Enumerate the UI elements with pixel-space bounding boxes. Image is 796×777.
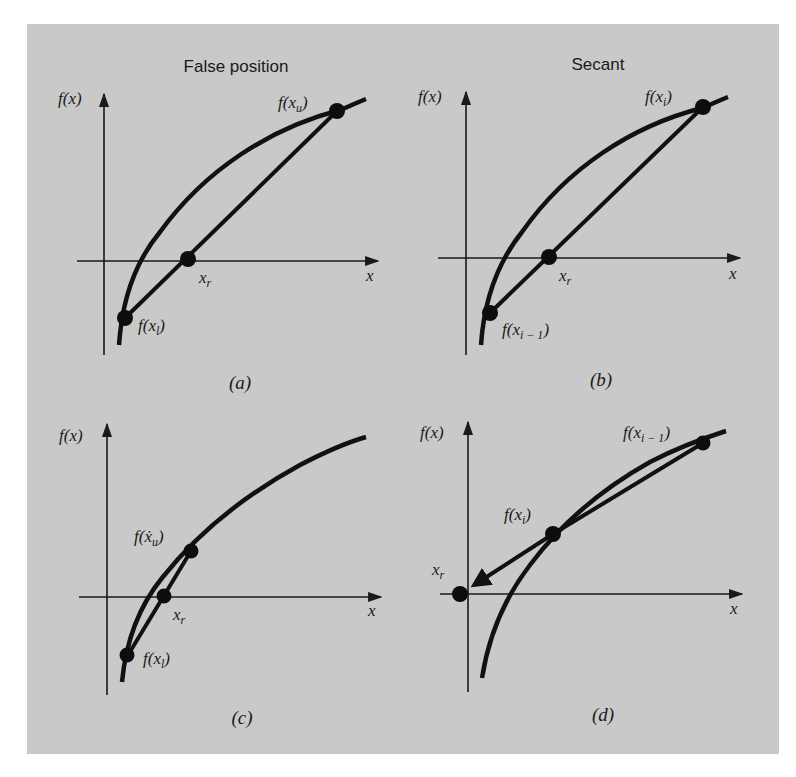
point-f-xi [695, 99, 711, 115]
function-curve [122, 437, 366, 682]
y-axis-label: f(x) [418, 87, 442, 106]
secant-line [553, 443, 703, 534]
column-title-secant: Secant [572, 55, 625, 74]
y-axis-label: f(x) [59, 426, 83, 445]
point-xr [180, 251, 196, 267]
y-axis-label: f(x) [58, 89, 82, 108]
point-f-xu [184, 544, 199, 559]
label-f-xi-minus-1: f(xi − 1) [623, 423, 670, 445]
point-f-xl [120, 648, 135, 663]
point-f-xi-minus-1 [696, 436, 711, 451]
column-title-false-position: False position [184, 57, 289, 76]
label-xr: xr [431, 560, 445, 582]
label-f-xi: f(xi) [504, 505, 531, 527]
label-f-xi-minus-1: f(xi − 1) [502, 320, 549, 342]
root-finding-figure: False position Secant f(x) x f(xu) f(xl)… [0, 0, 796, 777]
panel-c: f(x) x f(ẋu) f(xl) xr (c) [59, 424, 381, 729]
point-f-xi [545, 526, 561, 542]
point-f-xl [117, 310, 133, 326]
label-f-xi: f(xi) [645, 87, 672, 109]
point-xr [452, 586, 468, 602]
label-f-xu: f(xu) [278, 93, 308, 115]
point-xr [541, 249, 557, 265]
panel-b: f(x) x f(xi) f(xi − 1) xr (b) [418, 87, 740, 391]
extrapolation-arrow [474, 534, 553, 585]
label-xr: xr [198, 268, 212, 290]
x-axis-label: x [367, 601, 376, 620]
function-curve [119, 99, 366, 345]
y-axis-label: f(x) [420, 423, 444, 442]
label-xr: xr [558, 266, 572, 288]
panel-a: f(x) x f(xu) f(xl) xr (a) [58, 89, 378, 394]
point-xr [157, 589, 172, 604]
label-f-xl: f(xl) [138, 316, 165, 338]
panel-d: f(x) x f(xi − 1) f(xi) xr (d) [420, 422, 742, 726]
x-axis-label: x [729, 599, 738, 618]
x-axis-label: x [365, 266, 374, 285]
secant-line [490, 107, 703, 313]
caption-d: (d) [592, 704, 614, 726]
point-f-xu [329, 103, 345, 119]
false-position-chord [128, 551, 191, 655]
x-axis-label: x [728, 264, 737, 283]
function-curve [481, 97, 728, 345]
caption-c: (c) [231, 707, 252, 729]
label-f-xl: f(xl) [143, 649, 170, 671]
caption-b: (b) [590, 369, 612, 391]
label-f-xu: f(ẋu) [134, 527, 164, 549]
point-f-xi-minus-1 [482, 305, 498, 321]
label-xr: xr [172, 605, 186, 627]
false-position-chord [125, 111, 337, 318]
caption-a: (a) [229, 372, 251, 394]
